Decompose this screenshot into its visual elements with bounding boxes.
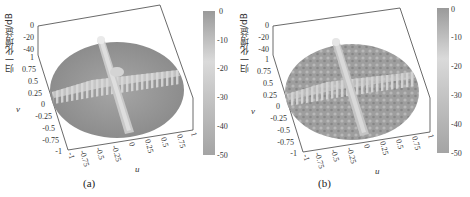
colorbar-tick: 0 xyxy=(451,5,455,14)
v-tick: 0 xyxy=(276,102,280,111)
colorbar-tick: 0 xyxy=(219,7,223,16)
v-tick: 0.5 xyxy=(263,79,273,88)
u-tick: -1 xyxy=(301,153,311,162)
u-tick: 0 xyxy=(362,143,372,149)
colorbar-tick: -30 xyxy=(217,93,228,102)
u-tick: -0.25 xyxy=(110,144,123,162)
v-tick: 0.5 xyxy=(28,77,38,86)
v-tick: 0.25 xyxy=(28,89,42,98)
chart-panel-b: 归一化增益/dB 0 -20 -40 1 0.75 0.5 0.25 0 -0.… xyxy=(235,0,470,197)
colorbar-tick: -40 xyxy=(451,120,462,129)
surface-plot-b: 0 -20 -40 1 0.75 0.5 0.25 0 -0.25 -0.5 -… xyxy=(235,0,470,197)
v-tick: -1 xyxy=(290,149,297,158)
u-tick: 0.75 xyxy=(175,133,187,149)
u-axis-label: u xyxy=(375,166,380,176)
u-tick: -0.75 xyxy=(78,149,91,167)
panel-caption: (b) xyxy=(318,177,331,189)
u-tick: 0.25 xyxy=(143,138,155,154)
u-tick: 1 xyxy=(426,133,436,139)
u-tick: 0 xyxy=(127,141,137,147)
v-tick: -0.25 xyxy=(270,114,287,123)
colorbar-tick: -10 xyxy=(451,33,462,42)
colorbar-tick: -50 xyxy=(451,149,462,158)
u-tick: 0.75 xyxy=(410,135,422,151)
z-tick: -20 xyxy=(23,33,34,42)
u-tick: -1 xyxy=(66,151,76,160)
v-tick: -0.75 xyxy=(277,138,294,147)
v-axis-label: v xyxy=(16,104,20,114)
u-tick: -0.25 xyxy=(345,146,358,164)
u-tick: 0.5 xyxy=(159,136,170,148)
z-axis-label: 归一化增益/dB xyxy=(237,8,251,78)
v-tick: 0.75 xyxy=(257,67,271,76)
v-tick: -0.5 xyxy=(277,126,290,135)
z-tick: 0 xyxy=(265,21,269,30)
chart-panel-a: 归一化增益/dB xyxy=(0,0,235,197)
u-tick: 0.5 xyxy=(394,138,405,150)
v-tick: 0 xyxy=(41,100,45,109)
v-tick: -0.5 xyxy=(42,124,55,133)
panel-caption: (a) xyxy=(83,177,95,189)
u-tick: -0.75 xyxy=(313,151,326,169)
colorbar-tick: -20 xyxy=(451,62,462,71)
colorbar xyxy=(203,11,215,155)
u-tick: -0.5 xyxy=(94,146,106,161)
z-tick: 0 xyxy=(30,21,34,30)
u-tick: 1 xyxy=(189,131,199,137)
z-tick: -20 xyxy=(258,33,269,42)
v-axis-label: v xyxy=(251,106,255,116)
colorbar-tick: -10 xyxy=(217,36,228,45)
v-tick: -0.25 xyxy=(35,112,52,121)
colorbar-tick: -20 xyxy=(217,64,228,73)
u-axis-label: u xyxy=(135,164,140,174)
v-tick: 1 xyxy=(265,55,269,64)
surface-plot-a: 0 -20 -40 1 0.75 0.5 0.25 0 -0.25 -0.5 -… xyxy=(0,0,235,197)
z-tick: -40 xyxy=(258,45,269,54)
u-tick: -0.5 xyxy=(329,148,341,163)
colorbar xyxy=(437,8,449,153)
colorbar-tick: -40 xyxy=(217,122,228,131)
z-axis-label: 归一化增益/dB xyxy=(2,8,16,78)
v-tick: -1 xyxy=(55,147,62,156)
colorbar-tick: -30 xyxy=(451,91,462,100)
colorbar-tick: -50 xyxy=(217,151,228,160)
v-tick: 0.25 xyxy=(263,91,277,100)
u-tick: 0.25 xyxy=(378,140,390,156)
v-tick: -0.75 xyxy=(42,136,59,145)
v-tick: 0.75 xyxy=(22,65,36,74)
v-tick: 1 xyxy=(30,53,34,62)
